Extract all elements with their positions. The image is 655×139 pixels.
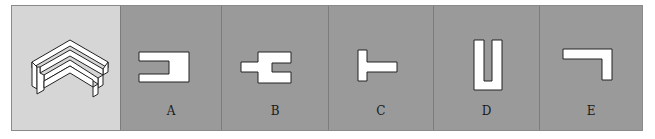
option-c[interactable]: C [329, 6, 434, 130]
option-e[interactable]: E [540, 6, 642, 130]
option-a[interactable]: A [121, 6, 223, 130]
option-label-a: A [121, 104, 222, 118]
option-label-e: E [540, 104, 642, 118]
option-label-b: B [222, 104, 328, 118]
option-label-c: C [329, 104, 433, 118]
option-d[interactable]: D [434, 6, 541, 130]
option-label-d: D [434, 104, 540, 118]
isometric-block-icon [12, 6, 121, 132]
puzzle-frame: A B C D E [11, 5, 643, 131]
option-b[interactable]: B [222, 6, 329, 130]
question-cell [12, 6, 121, 130]
